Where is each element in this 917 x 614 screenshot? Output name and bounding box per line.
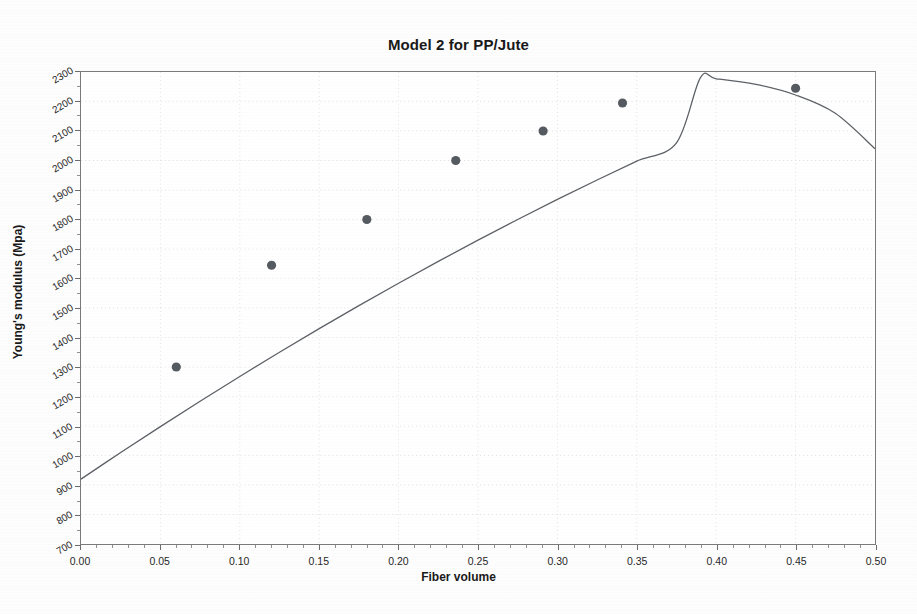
- x-tick-mark: [558, 545, 559, 550]
- y-tick-mark: [75, 249, 80, 250]
- y-tick-mark: [75, 515, 80, 516]
- y-minor-tick-mark: [77, 204, 80, 205]
- x-tick-mark: [319, 545, 320, 550]
- x-minor-tick-mark: [191, 545, 192, 548]
- x-minor-tick-mark: [685, 545, 686, 548]
- y-minor-tick-mark: [77, 530, 80, 531]
- x-tick-label: 0.45: [786, 555, 806, 567]
- y-tick-label: 1000: [50, 450, 75, 471]
- data-point: [618, 98, 627, 107]
- x-minor-tick-mark: [207, 545, 208, 548]
- y-minor-tick-mark: [77, 412, 80, 413]
- x-minor-tick-mark: [430, 545, 431, 548]
- y-tick-mark: [75, 338, 80, 339]
- x-tick-mark: [717, 545, 718, 550]
- x-minor-tick-mark: [112, 545, 113, 548]
- y-minor-tick-mark: [77, 115, 80, 116]
- x-tick-mark: [160, 545, 161, 550]
- y-minor-tick-mark: [77, 86, 80, 87]
- x-minor-tick-mark: [271, 545, 272, 548]
- y-tick-label: 1700: [50, 242, 75, 263]
- y-tick-label: 2200: [50, 94, 75, 115]
- data-point: [791, 84, 800, 93]
- x-tick-label: 0.30: [547, 555, 567, 567]
- x-minor-tick-mark: [351, 545, 352, 548]
- y-minor-tick-mark: [77, 323, 80, 324]
- x-minor-tick-mark: [144, 545, 145, 548]
- y-tick-label: 900: [55, 479, 75, 497]
- y-tick-mark: [75, 278, 80, 279]
- x-minor-tick-mark: [669, 545, 670, 548]
- y-minor-tick-mark: [77, 471, 80, 472]
- y-minor-tick-mark: [77, 293, 80, 294]
- plot-area: [80, 71, 876, 545]
- x-minor-tick-mark: [621, 545, 622, 548]
- x-minor-tick-mark: [446, 545, 447, 548]
- data-point: [539, 126, 548, 135]
- x-minor-tick-mark: [96, 545, 97, 548]
- x-minor-tick-mark: [542, 545, 543, 548]
- y-tick-label: 1400: [50, 331, 75, 352]
- data-point: [172, 362, 181, 371]
- x-minor-tick-mark: [749, 545, 750, 548]
- y-minor-tick-mark: [77, 352, 80, 353]
- x-minor-tick-mark: [701, 545, 702, 548]
- y-tick-label: 1600: [50, 272, 75, 293]
- chart-figure: Model 2 for PP/Jute 70080090010001100120…: [0, 0, 917, 614]
- x-minor-tick-mark: [653, 545, 654, 548]
- x-minor-tick-mark: [605, 545, 606, 548]
- x-minor-tick-mark: [574, 545, 575, 548]
- x-minor-tick-mark: [733, 545, 734, 548]
- x-minor-tick-mark: [335, 545, 336, 548]
- y-minor-tick-mark: [77, 501, 80, 502]
- y-tick-mark: [75, 219, 80, 220]
- y-minor-tick-mark: [77, 234, 80, 235]
- x-tick-label: 0.15: [309, 555, 329, 567]
- y-tick-label: 1800: [50, 213, 75, 234]
- x-minor-tick-mark: [255, 545, 256, 548]
- x-tick-mark: [398, 545, 399, 550]
- data-point: [267, 261, 276, 270]
- x-tick-label: 0.40: [707, 555, 727, 567]
- x-tick-label: 0.20: [388, 555, 408, 567]
- x-tick-label: 0.35: [627, 555, 647, 567]
- x-tick-mark: [478, 545, 479, 550]
- y-tick-label: 2000: [50, 154, 75, 175]
- y-tick-label: 2300: [50, 65, 75, 86]
- y-tick-label: 1500: [50, 302, 75, 323]
- y-tick-label: 1100: [51, 420, 75, 440]
- x-tick-label: 0.10: [229, 555, 249, 567]
- data-point: [451, 156, 460, 165]
- x-minor-tick-mark: [303, 545, 304, 548]
- x-tick-label: 0.25: [468, 555, 488, 567]
- x-minor-tick-mark: [287, 545, 288, 548]
- x-minor-tick-mark: [494, 545, 495, 548]
- x-minor-tick-mark: [462, 545, 463, 548]
- x-minor-tick-mark: [223, 545, 224, 548]
- y-tick-mark: [75, 397, 80, 398]
- x-minor-tick-mark: [765, 545, 766, 548]
- x-tick-mark: [876, 545, 877, 550]
- y-minor-tick-mark: [77, 382, 80, 383]
- x-axis-title: Fiber volume: [0, 570, 917, 584]
- x-tick-mark: [239, 545, 240, 550]
- y-minor-tick-mark: [77, 441, 80, 442]
- y-tick-mark: [75, 160, 80, 161]
- y-minor-tick-mark: [77, 264, 80, 265]
- x-minor-tick-mark: [526, 545, 527, 548]
- x-minor-tick-mark: [128, 545, 129, 548]
- x-minor-tick-mark: [382, 545, 383, 548]
- x-minor-tick-mark: [844, 545, 845, 548]
- x-tick-label: 0.00: [70, 555, 90, 567]
- x-tick-label: 0.05: [149, 555, 169, 567]
- chart-title: Model 2 for PP/Jute: [0, 36, 917, 53]
- x-tick-mark: [80, 545, 81, 550]
- y-tick-label: 1200: [50, 391, 75, 412]
- y-tick-label: 800: [55, 509, 75, 527]
- chart-data-layer: [81, 72, 875, 544]
- y-tick-mark: [75, 486, 80, 487]
- x-minor-tick-mark: [828, 545, 829, 548]
- x-minor-tick-mark: [780, 545, 781, 548]
- y-tick-label: 1900: [50, 183, 75, 204]
- y-axis-title: Young's modulus (Mpa): [11, 162, 25, 422]
